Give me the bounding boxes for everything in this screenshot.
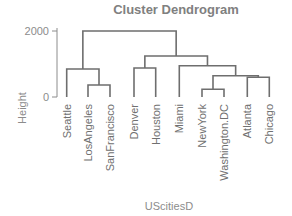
- leaf-label-newyork: NewYork: [196, 104, 208, 148]
- branch-miami-east: [179, 66, 235, 97]
- leaf-label-houston: Houston: [150, 104, 162, 145]
- branch-newyork-washingtondc: [202, 89, 224, 97]
- leaf-label-sanfrancisco: SanFrancisco: [104, 104, 116, 171]
- branch-atlanta-chicago: [247, 77, 269, 97]
- branch-denver-houston: [134, 68, 156, 97]
- leaf-label-washingtondc: Washington.DC: [218, 104, 230, 181]
- leaf-label-atlanta: Atlanta: [241, 103, 253, 138]
- chart-title: Cluster Dendrogram: [113, 2, 239, 17]
- leaf-label-denver: Denver: [128, 104, 140, 140]
- y-axis: 2000 0 Height: [16, 25, 57, 124]
- y-axis-label: Height: [16, 92, 28, 124]
- leaf-label-losangeles: LosAngeles: [82, 104, 94, 162]
- branch-west-coast: [67, 69, 99, 97]
- leaf-label-seattle: Seattle: [61, 104, 73, 138]
- leaf-labels: SeattleLosAngelesSanFranciscoDenverHoust…: [61, 103, 276, 181]
- y-tick-label-0: 0: [43, 91, 49, 103]
- y-tick-label-2000: 2000: [25, 25, 49, 37]
- leaf-label-chicago: Chicago: [263, 104, 275, 144]
- dendrogram-branches: [67, 31, 270, 97]
- dendrogram-chart: Cluster Dendrogram 2000 0 Height Seattle…: [0, 0, 292, 216]
- branch-root: [83, 31, 176, 69]
- leaf-label-miami: Miami: [173, 104, 185, 133]
- branch-losangeles-sanfrancisco: [88, 85, 110, 97]
- x-axis-label: UScitiesD: [145, 200, 193, 212]
